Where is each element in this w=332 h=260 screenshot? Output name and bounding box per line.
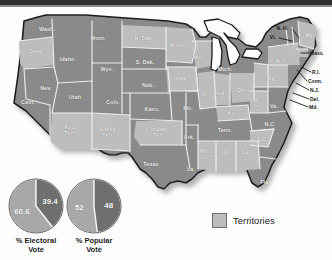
map-body: [14, 15, 316, 189]
territory-arizona: [50, 113, 92, 149]
callout-label-md: Md.: [309, 104, 318, 110]
callout-label-mass: Mass.: [310, 50, 324, 56]
legend: Territories: [212, 213, 275, 228]
territory-mass: [296, 49, 308, 57]
legend-label-territories: Territories: [233, 215, 275, 226]
territory-oregon: [19, 37, 54, 69]
callout-label-vt: Vt.: [270, 34, 276, 40]
election-map-figure: Wash.Oreg.Calif.Nev.IdahoUtahAriz. Terr.…: [0, 0, 332, 260]
territory-ind: [214, 73, 230, 105]
territory-ndak: [122, 25, 166, 49]
pie-value-popular-0: 52: [75, 202, 84, 211]
territory-miss: [198, 141, 216, 171]
pie-caption-electoral: % Electoral Vote: [8, 237, 64, 254]
callout-label-del: Del.: [310, 96, 319, 102]
pie-graphic-popular: 5248: [66, 178, 122, 234]
territory-wva: [250, 91, 268, 113]
callout-label-ri: R.I.: [312, 69, 320, 75]
pie-value-electoral-0: 60.6: [14, 206, 30, 215]
pie-chart-electoral: 60.639.4% Electoral Vote: [8, 178, 64, 254]
pie-chart-popular: 5248% Popular Vote: [66, 178, 122, 254]
territory-pa: [254, 63, 288, 87]
territory-ala: [216, 141, 236, 171]
pie-value-electoral-1: 39.4: [42, 197, 58, 206]
territory-ill: [198, 71, 216, 109]
territory-minn: [166, 27, 196, 63]
legend-swatch-territories: [212, 213, 227, 228]
us-map: Wash.Oreg.Calif.Nev.IdahoUtahAriz. Terr.…: [0, 7, 332, 197]
territory-iowa: [166, 67, 198, 91]
lake-erie-ontario: [242, 49, 262, 59]
us-map-svg: [0, 7, 332, 197]
territory-newmexico: [92, 113, 130, 151]
lake-michigan: [211, 37, 222, 71]
callout-label-nh: N. H.: [277, 25, 288, 31]
pie-value-popular-1: 48: [104, 201, 113, 210]
pie-graphic-electoral: 60.639.4: [8, 178, 64, 234]
callout-label-nj: N.J.: [310, 87, 319, 93]
territory-indian: [134, 121, 182, 145]
territory-ky: [216, 105, 250, 121]
pie-caption-popular: % Popular Vote: [66, 237, 122, 254]
callout-label-conn: Conn.: [308, 78, 322, 84]
